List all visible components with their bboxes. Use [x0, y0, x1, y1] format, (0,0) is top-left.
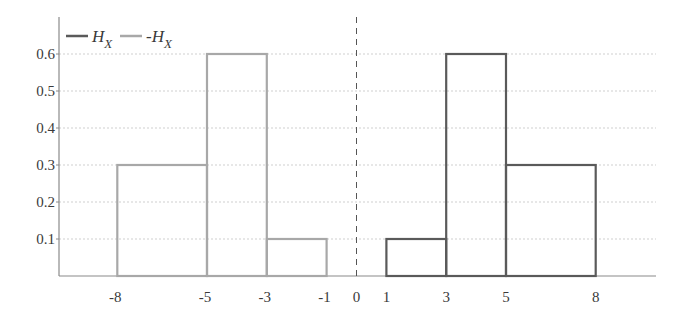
histogram-bar [267, 239, 327, 276]
x-tick-label: 8 [592, 289, 600, 305]
x-tick-label: -1 [318, 289, 331, 305]
histogram-bar [506, 165, 596, 276]
x-tick-label: 1 [383, 289, 391, 305]
y-tick-label: 0.6 [36, 46, 55, 62]
x-axis-ticks: -8-5-3-101358 [109, 289, 599, 305]
x-tick-label: -3 [259, 289, 272, 305]
histogram-bar [386, 239, 446, 276]
legend-label: HX [91, 27, 113, 51]
x-tick-label: -5 [199, 289, 212, 305]
histogram-bar [117, 165, 207, 276]
histogram-chart: -8-5-3-101358 0.10.20.30.40.50.6 HX-HX [0, 0, 682, 312]
x-tick-label: 3 [442, 289, 450, 305]
legend: HX-HX [66, 27, 173, 51]
y-tick-label: 0.4 [36, 120, 55, 136]
y-tick-label: 0.3 [36, 157, 55, 173]
grid-lines [59, 54, 656, 239]
x-tick-label: 0 [353, 289, 361, 305]
y-tick-label: 0.2 [36, 194, 55, 210]
y-tick-label: 0.5 [36, 83, 55, 99]
y-axis-ticks: 0.10.20.30.40.50.6 [36, 46, 59, 247]
x-tick-label: -8 [109, 289, 122, 305]
legend-label: -HX [146, 27, 173, 51]
y-tick-label: 0.1 [36, 231, 55, 247]
x-tick-label: 5 [502, 289, 510, 305]
axes [59, 17, 656, 276]
